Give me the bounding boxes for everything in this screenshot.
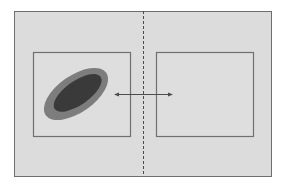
diagram-canvas <box>0 0 283 187</box>
